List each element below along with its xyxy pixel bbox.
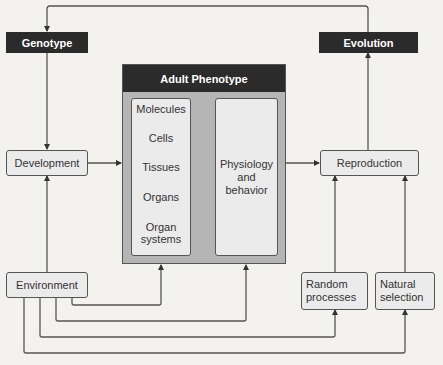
adult-phenotype-title: Adult Phenotype	[123, 65, 285, 92]
level-organs: Organs	[132, 191, 190, 203]
organization-levels-box: Molecules Cells Tissues Organs Organ sys…	[131, 98, 191, 256]
random-processes-node: Random processes	[301, 272, 368, 310]
physiology-behavior-box: Physiology and behavior	[215, 98, 278, 256]
level-organ-systems: Organ systems	[132, 221, 190, 245]
level-cells: Cells	[132, 132, 190, 144]
natural-selection-node: Natural selection	[375, 272, 435, 310]
environment-node: Environment	[6, 272, 88, 298]
reproduction-node: Reproduction	[320, 150, 419, 176]
adult-phenotype-container: Adult Phenotype Molecules Cells Tissues …	[122, 64, 286, 264]
evolution-node: Evolution	[319, 32, 418, 53]
development-node: Development	[6, 150, 88, 176]
level-molecules: Molecules	[132, 103, 190, 115]
level-tissues: Tissues	[132, 161, 190, 173]
genotype-node: Genotype	[6, 32, 88, 53]
